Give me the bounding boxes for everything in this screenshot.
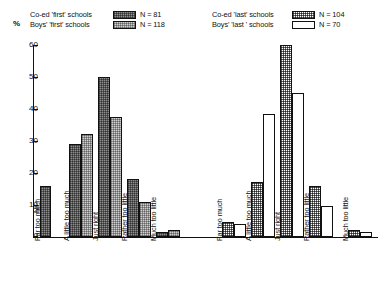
bar-last-boys-rather-too-little (321, 206, 333, 236)
bar-group-last-far-too-much (222, 45, 246, 237)
x-label-first-far-too-much: Far too much (34, 179, 42, 241)
x-label-first-just-right: Just right (92, 179, 100, 241)
bar-first-boys-much-too-little (168, 230, 180, 236)
x-label-first-a-little-too-much: A little too much (63, 179, 71, 241)
x-label-first-rather-too-little: Rather too little (121, 179, 129, 241)
plot-area: % 60 50 40 30 20 10 0 Nil (0, 0, 388, 305)
x-label-last-rather-too-little: Rather too little (303, 179, 311, 241)
x-label-first-much-too-little: Much too little (150, 179, 158, 241)
bar-group-last-much-too-little (348, 45, 372, 237)
x-axis-line (33, 237, 378, 238)
bar-group-first-rather-too-little (127, 45, 151, 237)
x-label-last-much-too-little: Much too little (342, 179, 350, 241)
bar-group-last-just-right (280, 45, 304, 237)
bar-chart: Co-ed 'first' schools N = 81 Boys' 'firs… (0, 0, 388, 305)
bar-group-first-a-little-too-much (69, 45, 93, 237)
x-label-last-just-right: Just right (274, 179, 282, 241)
y-axis-unit-label: % (13, 19, 20, 28)
bar-last-boys-much-too-little (360, 232, 372, 237)
x-label-last-a-little-too-much: A little too much (245, 179, 253, 241)
bar-group-first-much-too-little (156, 45, 180, 237)
bars-layer (0, 45, 388, 237)
bar-group-first-just-right (98, 45, 122, 237)
bar-group-last-rather-too-little (309, 45, 333, 237)
bar-group-last-a-little-too-much (251, 45, 275, 237)
x-label-last-far-too-much: Far too much (216, 179, 224, 241)
